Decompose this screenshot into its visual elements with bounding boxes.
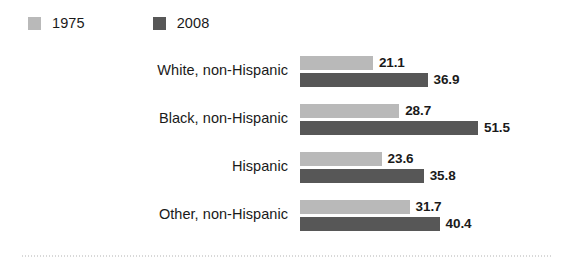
category-label: White, non-Hispanic: [0, 53, 288, 87]
bar-1975: [300, 152, 382, 166]
bar-1975: [300, 104, 399, 118]
bar-value-label: 23.6: [388, 152, 414, 166]
bar-row-1975: 21.1: [300, 56, 405, 70]
legend-swatch-icon-2008: [153, 17, 166, 30]
bar-pair: 21.136.9: [300, 53, 575, 87]
category-label: Black, non-Hispanic: [0, 101, 288, 135]
bar-1975: [300, 56, 373, 70]
bar-value-label: 36.9: [434, 73, 460, 87]
plot-area: White, non-Hispanic21.136.9Black, non-Hi…: [0, 50, 575, 246]
bar-group: White, non-Hispanic21.136.9: [0, 53, 575, 87]
chart-legend: 1975 2008: [28, 16, 209, 31]
bar-2008: [300, 217, 440, 231]
legend-label-1975: 1975: [52, 16, 85, 31]
category-label: Hispanic: [0, 149, 288, 183]
bar-row-2008: 35.8: [300, 169, 456, 183]
bar-pair: 28.751.5: [300, 101, 575, 135]
bar-value-label: 28.7: [405, 104, 431, 118]
bar-value-label: 21.1: [379, 56, 405, 70]
bar-group: Hispanic23.635.8: [0, 149, 575, 183]
bar-value-label: 31.7: [416, 200, 442, 214]
bar-row-1975: 28.7: [300, 104, 431, 118]
legend-entry-2008: 2008: [153, 16, 210, 31]
bar-1975: [300, 200, 410, 214]
bar-group: Black, non-Hispanic28.751.5: [0, 101, 575, 135]
legend-label-2008: 2008: [177, 16, 210, 31]
bar-2008: [300, 169, 424, 183]
bar-pair: 23.635.8: [300, 149, 575, 183]
footer-divider: [22, 255, 552, 257]
bar-row-1975: 23.6: [300, 152, 413, 166]
bar-value-label: 40.4: [446, 217, 472, 231]
legend-entry-1975: 1975: [28, 16, 85, 31]
bar-value-label: 51.5: [484, 121, 510, 135]
legend-swatch-icon-1975: [28, 17, 41, 30]
bar-pair: 31.740.4: [300, 197, 575, 231]
bar-row-2008: 51.5: [300, 121, 510, 135]
bar-row-2008: 36.9: [300, 73, 459, 87]
bar-2008: [300, 121, 478, 135]
bar-row-1975: 31.7: [300, 200, 441, 214]
bar-2008: [300, 73, 428, 87]
bar-group: Other, non-Hispanic31.740.4: [0, 197, 575, 231]
bar-value-label: 35.8: [430, 169, 456, 183]
category-label: Other, non-Hispanic: [0, 197, 288, 231]
bar-row-2008: 40.4: [300, 217, 471, 231]
grouped-bar-chart: 1975 2008 White, non-Hispanic21.136.9Bla…: [0, 0, 575, 266]
